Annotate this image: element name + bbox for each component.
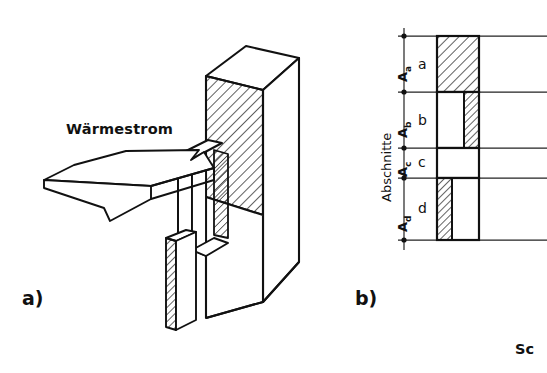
section-letter-a: a — [418, 56, 427, 72]
area-label-b-base: A — [395, 128, 410, 138]
area-label-c: Ac — [395, 162, 413, 177]
area-label-a-base: A — [395, 72, 410, 82]
section-letter-c: c — [418, 154, 426, 170]
figure-drawing — [0, 0, 547, 373]
area-label-c-sub: c — [403, 162, 413, 167]
area-label-b: Ab — [395, 121, 413, 138]
section-letter-d: d — [418, 200, 427, 216]
detached-plate-hatched-face — [166, 238, 176, 330]
detached-plate-right-face — [176, 232, 196, 330]
area-label-a-sub: a — [403, 66, 413, 72]
clipped-caption-fragment: Sc — [515, 341, 534, 357]
bar-band-b — [437, 92, 479, 148]
panel-a-caption: a) — [22, 287, 44, 309]
area-label-d-sub: d — [403, 215, 413, 221]
area-label-d: Ad — [395, 215, 413, 232]
area-label-a: Aa — [395, 66, 413, 82]
panel-b-caption: b) — [355, 287, 377, 309]
area-label-b-sub: b — [403, 121, 413, 127]
inner-hatched-strip — [214, 150, 228, 238]
bar-band-a — [437, 36, 479, 92]
heat-flow-label: Wärmestrom — [66, 121, 173, 137]
area-label-c-base: A — [395, 167, 410, 177]
main-slab-right-face — [263, 58, 299, 302]
figure-canvas: Wärmestrom a) b) Abschnitte Aa Ab Ac Ad … — [0, 0, 547, 373]
axis-title-abschnitte: Abschnitte — [379, 133, 394, 202]
section-letter-b: b — [418, 112, 427, 128]
area-label-d-base: A — [395, 222, 410, 232]
bar-band-c — [437, 148, 479, 178]
bar-band-d — [437, 178, 479, 240]
panel-a-drawing — [44, 46, 299, 330]
